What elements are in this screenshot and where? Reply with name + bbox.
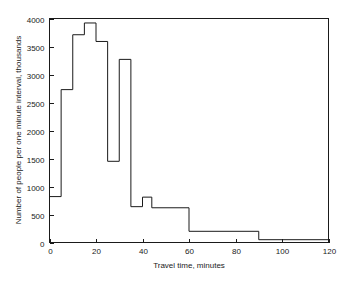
x-tick-label: 20 bbox=[92, 247, 101, 256]
y-tick-label: 3000 bbox=[27, 72, 45, 81]
x-tick-label: 120 bbox=[323, 247, 337, 256]
y-tick-label: 1000 bbox=[27, 184, 45, 193]
histogram-step-line bbox=[50, 23, 329, 243]
x-tick-label: 100 bbox=[276, 247, 290, 256]
x-tick-label: 0 bbox=[48, 247, 53, 256]
y-tick-label: 2000 bbox=[27, 128, 45, 137]
x-tick-label: 40 bbox=[139, 247, 148, 256]
y-axis-ticks bbox=[50, 20, 54, 244]
y-axis-label: Number of people per one minute interval… bbox=[14, 36, 23, 225]
y-axis-tick-labels: 05001000150020002500300035004000 bbox=[27, 16, 45, 249]
x-axis-label: Travel time, minutes bbox=[153, 261, 225, 270]
y-tick-label: 0 bbox=[40, 240, 45, 249]
x-tick-label: 60 bbox=[185, 247, 194, 256]
x-tick-label: 80 bbox=[232, 247, 241, 256]
y-tick-label: 4000 bbox=[27, 16, 45, 25]
histogram-plot: 05001000150020002500300035004000 0204060… bbox=[0, 0, 349, 281]
chart-figure: 05001000150020002500300035004000 0204060… bbox=[0, 0, 349, 281]
y-tick-label: 500 bbox=[31, 212, 45, 221]
y-tick-label: 1500 bbox=[27, 156, 45, 165]
y-tick-label: 2500 bbox=[27, 100, 45, 109]
y-tick-label: 3500 bbox=[27, 44, 45, 53]
x-axis-tick-labels: 020406080100120 bbox=[48, 247, 336, 256]
x-axis-ticks bbox=[51, 239, 330, 243]
